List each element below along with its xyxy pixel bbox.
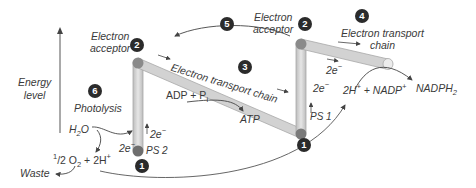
acceptor2-line2: acceptor [253,24,293,35]
energy-axis-arrow [57,27,63,133]
adp-text: ADP + P [166,89,206,101]
ps1-2e-sup: − [325,80,329,89]
etc1-in-arrow [158,55,170,59]
ps2-tube [133,62,143,150]
ps2-2e-text: 2e [150,128,162,140]
etc2-line1: Electron transport [341,28,424,39]
h2o-2e-text: 2e [119,142,131,154]
h2o-electrons-label: 2e− [119,141,135,153]
nadph-sub: 2 [453,88,457,97]
h2o-to-o2-arrow [96,130,101,152]
plus-sup: + [107,152,111,161]
energy-label-line2: level [18,90,51,101]
h2o-to-ps2-arrow [92,127,132,134]
nadp-reaction-label: 2H+ + NADP+ [343,83,406,95]
nadp-sup: + [402,82,406,91]
h2o-label: H2O [69,124,89,138]
nadp-text: + NADP [361,84,402,96]
nadph-text: NADPH [416,82,453,94]
acceptor2-label: Electron acceptor [253,12,293,34]
h2o-o: O [81,123,89,135]
etc2-label: Electron transport chain [341,28,424,50]
etc2-2e-arrow [327,59,338,61]
step-badge-2a: 2 [130,38,144,52]
acceptor1-node [133,58,144,69]
acceptor2-line1: Electron [253,12,293,23]
nadph-label: NADPH2 [416,83,457,97]
half-rest: /2 O [57,154,77,166]
plus-2h: + 2H [81,154,106,166]
waste-label: Waste [20,168,50,179]
adp-sub: i [206,95,208,104]
acceptor2-node [296,39,307,50]
photolysis-label: Photolysis [74,103,122,114]
step-badge-4: 4 [355,9,369,23]
etc2-2e-sup: − [338,62,342,71]
step-badge-5: 5 [220,17,234,31]
ps1-label: PS 1 [310,112,332,122]
h2o-h: H [69,123,77,135]
atp-label: ATP [240,114,260,125]
adp-label: ADP + Pi [166,90,208,104]
step-badge-2b: 2 [298,17,312,31]
ps1-electrons-label: 2e− [313,81,329,93]
nadp-2h: 2H [343,84,356,96]
acceptor1-label: Electron acceptor [90,31,130,53]
etc2-electrons-label: 2e− [326,63,342,75]
acceptor1-line2: acceptor [90,43,130,54]
etc2-2e-text: 2e [326,64,338,76]
energy-level-label: Energy level [18,77,51,100]
ps2-label: PS 2 [146,146,168,156]
ps1-2e-text: 2e [313,82,325,94]
etc1-out-arrow [277,89,288,92]
step-badge-3: 3 [238,60,252,74]
step-badge-1b: 1 [297,138,311,152]
ps2-2e-sup: − [162,126,166,135]
ps2-electrons-label: 2e− [150,127,166,139]
acceptor1-line1: Electron [90,31,130,42]
step-badge-6: 6 [88,84,102,98]
ps1-tube [296,43,306,133]
h2o-2e-sup: − [131,140,135,149]
oxygen-hydrogen-label: 1/2 O2 + 2H+ [53,153,111,168]
etc2-line2: chain [341,40,424,51]
step-badge-1a: 1 [135,159,149,173]
energy-label-line1: Energy [18,77,51,88]
